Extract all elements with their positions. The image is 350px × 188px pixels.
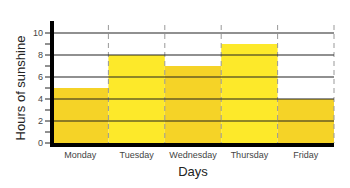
x-tick-label: Thursday: [231, 150, 269, 160]
x-tick-label: Tuesday: [120, 150, 155, 160]
y-tick-label: 10: [33, 28, 43, 38]
bars-group: [52, 44, 334, 143]
x-axis: [50, 143, 334, 147]
x-tick-label: Friday: [293, 150, 319, 160]
y-tick-label: 8: [38, 50, 43, 60]
x-tick-label: Monday: [64, 150, 97, 160]
bar-monday: [52, 88, 108, 143]
x-axis-title: Days: [178, 164, 208, 179]
y-tick-label: 4: [38, 94, 43, 104]
bar-thursday: [221, 44, 277, 143]
y-tick-label: 6: [38, 72, 43, 82]
bar-chart: MondayTuesdayWednesdayThursdayFriday0246…: [0, 0, 350, 188]
y-tick-label: 2: [38, 116, 43, 126]
x-tick-label: Wednesday: [169, 150, 217, 160]
y-axis: [50, 21, 54, 146]
y-axis-title: Hours of sunshine: [13, 36, 28, 141]
y-tick-label: 0: [38, 138, 43, 148]
